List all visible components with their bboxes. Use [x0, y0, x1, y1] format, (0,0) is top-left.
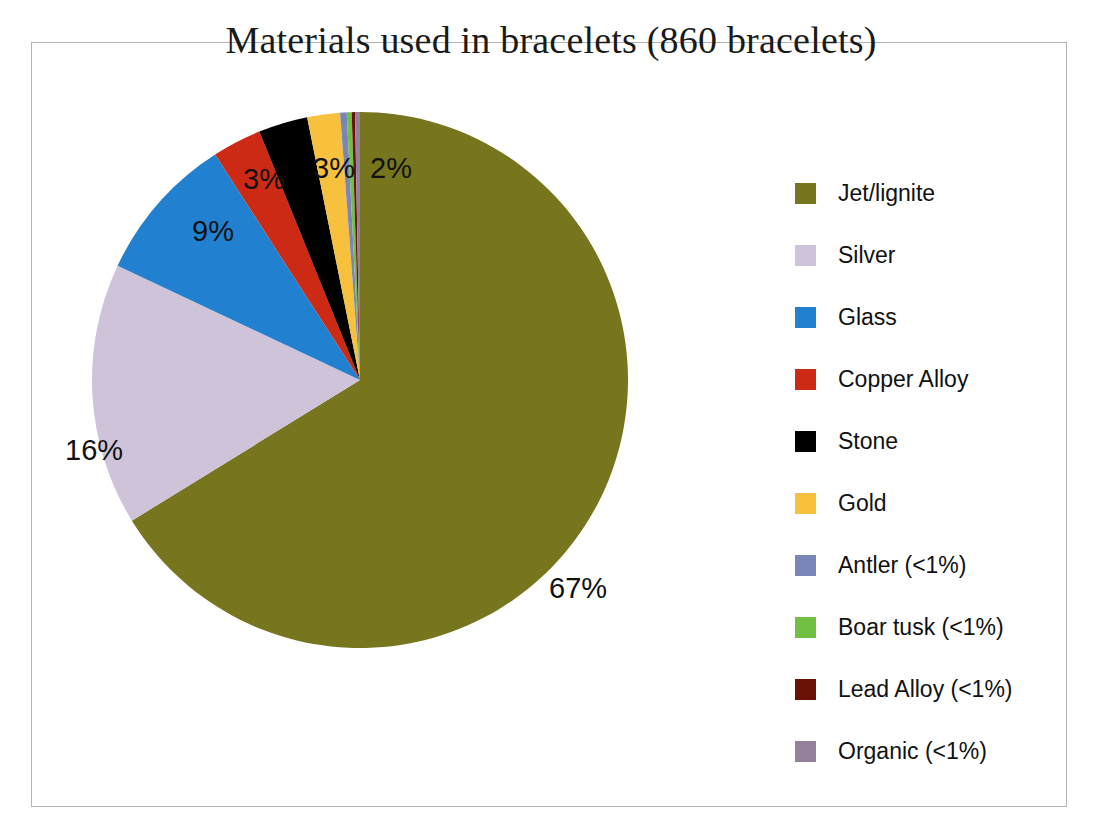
legend-swatch-icon: [795, 493, 816, 514]
pie-slices: Jet/lignite 67%Silver 16%Glass 9%Copper …: [92, 112, 628, 648]
legend-swatch-icon: [795, 617, 816, 638]
legend-item[interactable]: Glass: [795, 286, 1055, 348]
legend-item[interactable]: Boar tusk (<1%): [795, 596, 1055, 658]
chart-legend: Jet/ligniteSilverGlassCopper AlloyStoneG…: [795, 162, 1055, 782]
legend-item-label: Jet/lignite: [838, 182, 935, 205]
pie-slice-percent-label: 3%: [243, 163, 285, 196]
legend-swatch-icon: [795, 369, 816, 390]
legend-item[interactable]: Organic (<1%): [795, 720, 1055, 782]
pie-slice-percent-label: 3%: [313, 152, 355, 185]
legend-item-label: Organic (<1%): [838, 740, 987, 763]
legend-item-label: Copper Alloy: [838, 368, 968, 391]
legend-item[interactable]: Lead Alloy (<1%): [795, 658, 1055, 720]
legend-swatch-icon: [795, 679, 816, 700]
legend-item-label: Antler (<1%): [838, 554, 966, 577]
legend-item[interactable]: Silver: [795, 224, 1055, 286]
legend-swatch-icon: [795, 307, 816, 328]
pie-slice-percent-label: 16%: [65, 434, 123, 467]
legend-item[interactable]: Antler (<1%): [795, 534, 1055, 596]
legend-item-label: Lead Alloy (<1%): [838, 678, 1013, 701]
legend-item-label: Boar tusk (<1%): [838, 616, 1004, 639]
legend-item-label: Gold: [838, 492, 887, 515]
legend-item[interactable]: Stone: [795, 410, 1055, 472]
legend-item-label: Glass: [838, 306, 897, 329]
legend-item[interactable]: Gold: [795, 472, 1055, 534]
pie-slice-percent-label: 67%: [549, 572, 607, 605]
page-title: Materials used in bracelets (860 bracele…: [0, 18, 1102, 62]
chart-page: Materials used in bracelets (860 bracele…: [0, 0, 1102, 834]
legend-swatch-icon: [795, 183, 816, 204]
legend-item[interactable]: Jet/lignite: [795, 162, 1055, 224]
legend-swatch-icon: [795, 245, 816, 266]
legend-swatch-icon: [795, 431, 816, 452]
pie-slice-percent-label: 9%: [192, 215, 234, 248]
pie-svg: Jet/lignite 67%Silver 16%Glass 9%Copper …: [90, 110, 630, 650]
legend-item[interactable]: Copper Alloy: [795, 348, 1055, 410]
legend-swatch-icon: [795, 741, 816, 762]
pie-slice-percent-label: 2%: [370, 152, 412, 185]
legend-swatch-icon: [795, 555, 816, 576]
legend-item-label: Silver: [838, 244, 896, 267]
legend-item-label: Stone: [838, 430, 898, 453]
pie-chart: Jet/lignite 67%Silver 16%Glass 9%Copper …: [90, 110, 630, 650]
